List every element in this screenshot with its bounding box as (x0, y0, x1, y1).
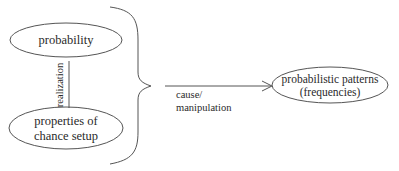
realization-label: realization (54, 62, 65, 107)
node-probability: probability (10, 23, 122, 57)
edge-cause-manipulation: cause/ manipulation (165, 81, 272, 113)
cause-label-line1: cause/ (176, 89, 202, 100)
node-chance-setup-line1: properties of (34, 114, 98, 128)
diagram-canvas: probability realization properties of ch… (0, 0, 399, 171)
node-probability-label: probability (39, 33, 95, 47)
curly-brace (110, 7, 151, 164)
node-chance-setup-line2: chance setup (34, 129, 98, 143)
node-patterns-line1: probabilistic patterns (282, 73, 379, 86)
node-patterns: probabilistic patterns (frequencies) (272, 67, 388, 103)
edge-realization: realization (54, 61, 69, 108)
cause-label-line2: manipulation (176, 102, 232, 113)
node-chance-setup: properties of chance setup (9, 107, 123, 149)
node-patterns-line2: (frequencies) (300, 86, 361, 99)
